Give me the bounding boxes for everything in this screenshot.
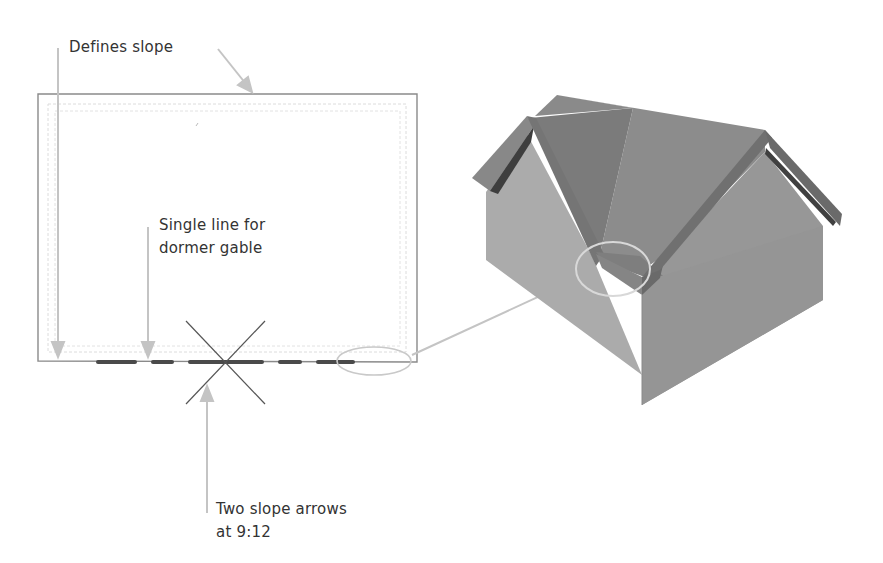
label-slope-arrows-line2: at 9:12	[216, 521, 347, 544]
label-single-line: Single line for dormer gable	[159, 214, 265, 260]
plan-marker	[196, 123, 198, 126]
label-defines-slope: Defines slope	[69, 36, 173, 59]
label-single-line-line1: Single line for	[159, 214, 265, 237]
house-3d-model	[472, 95, 842, 405]
label-single-line-line2: dormer gable	[159, 237, 265, 260]
arrowhead-slope-arrows	[201, 386, 213, 401]
callout-arrows	[52, 48, 579, 513]
label-slope-arrows: Two slope arrows at 9:12	[216, 498, 347, 544]
diagram-canvas	[0, 0, 883, 563]
label-slope-arrows-line1: Two slope arrows	[216, 498, 347, 521]
arrowhead-defines-slope	[238, 77, 252, 92]
arrowhead-left	[52, 342, 64, 357]
arrowhead-single-line	[142, 342, 154, 357]
